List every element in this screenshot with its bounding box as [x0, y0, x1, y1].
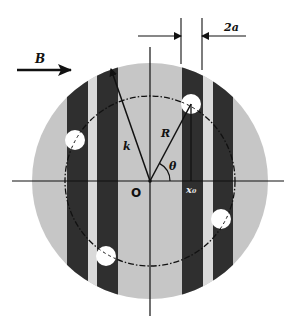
- label-k: k: [123, 141, 131, 152]
- hole-right: [211, 209, 231, 229]
- label-R: R: [161, 128, 170, 139]
- dark-stripe-1: [67, 50, 88, 320]
- dark-stripe-4: [213, 50, 233, 320]
- label-B: B: [35, 53, 45, 65]
- stripe-disk-diagram: [0, 0, 294, 330]
- hole-left: [65, 130, 85, 150]
- label-x0: x₀: [186, 185, 196, 195]
- dark-stripe-2: [97, 50, 118, 320]
- label-O: O: [131, 187, 141, 199]
- label-2a: 2a: [224, 22, 239, 33]
- origin-dot: [148, 179, 152, 183]
- light-gap-right: [203, 50, 213, 320]
- label-theta: θ: [169, 161, 176, 172]
- light-gap-left: [88, 50, 97, 320]
